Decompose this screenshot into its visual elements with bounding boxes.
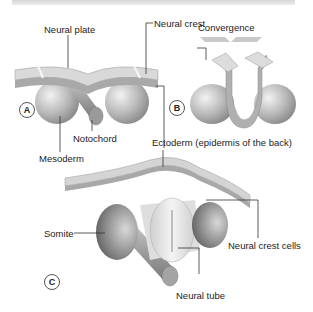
convergence-arrow-left [200,37,230,42]
label-convergence: Convergence [198,22,255,33]
mesoderm-right-sphere [105,80,149,124]
label-neural-tube: Neural tube [176,290,225,301]
panel-c [65,157,250,286]
ectoderm-sheet-top [65,157,250,203]
neural-crest-cells-sphere [192,202,228,248]
label-neural-crest-cells: Neural crest cells [228,240,301,251]
convergence-arrow-right [231,37,262,42]
panel-marker-b: B [169,100,185,116]
panel-marker-c: C [44,274,60,290]
label-somite: Somite [44,228,74,239]
panel-a [15,66,158,125]
label-ectoderm: Ectoderm (epidermis of the back) [152,137,292,148]
label-neural-plate: Neural plate [44,24,95,35]
somite-sphere [96,204,138,260]
panel-marker-a: A [19,102,35,118]
label-mesoderm: Mesoderm [39,153,84,164]
label-notochord: Notochord [73,133,117,144]
ectoderm-sheet-side [65,165,250,208]
